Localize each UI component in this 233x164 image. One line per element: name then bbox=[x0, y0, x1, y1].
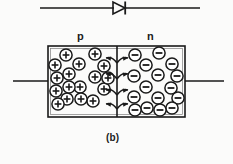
positive-charge bbox=[52, 98, 64, 110]
negative-charge bbox=[129, 104, 141, 116]
negative-charge bbox=[128, 70, 140, 82]
negative-charge bbox=[140, 81, 152, 93]
n-region-charges bbox=[128, 47, 184, 116]
diode-anode-triangle-icon bbox=[113, 2, 125, 14]
positive-charge bbox=[60, 49, 72, 61]
positive-charge bbox=[98, 60, 110, 72]
negative-charge bbox=[140, 59, 152, 71]
negative-charge bbox=[153, 47, 165, 59]
negative-charge bbox=[166, 102, 178, 114]
positive-charge bbox=[73, 58, 85, 70]
positive-charge bbox=[63, 68, 75, 80]
figure-caption: (b) bbox=[106, 133, 119, 143]
negative-charge bbox=[129, 49, 141, 61]
negative-charge bbox=[141, 102, 153, 114]
positive-charge bbox=[89, 71, 101, 83]
negative-charge bbox=[171, 70, 183, 82]
positive-charge bbox=[49, 59, 61, 71]
positive-charge bbox=[89, 48, 101, 60]
negative-charge bbox=[166, 58, 178, 70]
positive-charge bbox=[87, 95, 99, 107]
positive-charge bbox=[75, 93, 87, 105]
positive-charge bbox=[51, 72, 63, 84]
region-label-n: n bbox=[147, 31, 154, 42]
negative-charge bbox=[152, 92, 164, 104]
negative-charge bbox=[152, 69, 164, 81]
p-region-charges bbox=[49, 48, 114, 110]
positive-charge bbox=[63, 81, 75, 93]
positive-charge bbox=[50, 85, 62, 97]
diode-symbol bbox=[40, 2, 200, 15]
region-label-p: p bbox=[77, 31, 84, 42]
negative-charge bbox=[154, 104, 166, 116]
negative-charge bbox=[128, 91, 140, 103]
pn-junction-figure: p n (b) bbox=[0, 0, 233, 164]
